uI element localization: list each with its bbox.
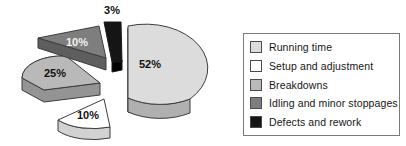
legend-label-running-time: Running time [269,41,332,53]
legend-item-defects-and-rework: Defects and rework [250,113,394,131]
pie-slice-defects-top [104,22,122,62]
pie-label-running-time: 52% [139,58,161,70]
pie-chart-figure: 52% 25% 10% 3% 10% [0,0,406,146]
pie-label-breakdowns: 25% [44,67,66,79]
chart-legend: Running time Setup and adjustment Breakd… [243,33,400,136]
legend-item-idling-and-minor-stoppages: Idling and minor stoppages [250,94,394,112]
legend-item-breakdowns: Breakdowns [250,76,394,94]
legend-swatch-running-time [250,41,262,53]
legend-swatch-defects-and-rework [250,116,262,128]
pie-label-defects: 3% [104,4,120,16]
pie-label-idling: 10% [66,36,88,48]
pie-chart-graphic: 52% 25% 10% 3% 10% [0,0,240,146]
pie-slice-running-time: 52% [128,24,208,118]
legend-label-defects-and-rework: Defects and rework [269,116,361,128]
legend-item-running-time: Running time [250,38,394,56]
legend-swatch-breakdowns [250,79,262,91]
pie-label-setup: 10% [77,109,99,121]
legend-swatch-idling-and-minor-stoppages [250,97,262,109]
legend-label-breakdowns: Breakdowns [269,79,328,91]
legend-item-setup-and-adjustment: Setup and adjustment [250,57,394,75]
pie-slice-defects: 3% [104,4,122,72]
legend-label-setup-and-adjustment: Setup and adjustment [269,60,373,72]
legend-label-idling-and-minor-stoppages: Idling and minor stoppages [269,97,398,109]
legend-swatch-setup-and-adjustment [250,60,262,72]
pie-slice-setup: 10% [58,99,110,140]
